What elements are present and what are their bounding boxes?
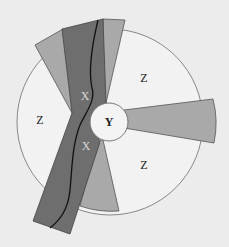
diagram: Y X X Z Z Z [0, 0, 229, 247]
label-zone-upper-right: Z [140, 71, 147, 85]
label-band-upper: X [81, 89, 90, 103]
label-center: Y [105, 115, 114, 129]
label-zone-left: Z [36, 113, 43, 127]
label-zone-lower-right: Z [140, 158, 147, 172]
label-band-lower: X [82, 139, 91, 153]
diagram-canvas: Y X X Z Z Z [0, 0, 229, 247]
